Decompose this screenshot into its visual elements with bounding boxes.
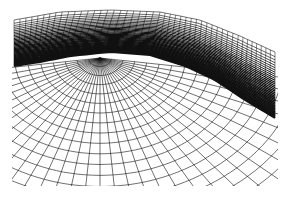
mesh-svg (0, 0, 289, 200)
dense-mesh-band (14, 10, 275, 118)
wireframe-illustration (0, 0, 289, 200)
